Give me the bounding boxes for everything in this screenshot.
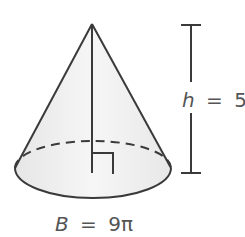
- height-label: h = 5: [182, 88, 245, 112]
- base-area-label: B = 9π: [55, 212, 133, 236]
- cone-diagram: h = 5 B = 9π: [0, 0, 245, 237]
- cone-figure: h = 5 B = 9π: [0, 0, 245, 237]
